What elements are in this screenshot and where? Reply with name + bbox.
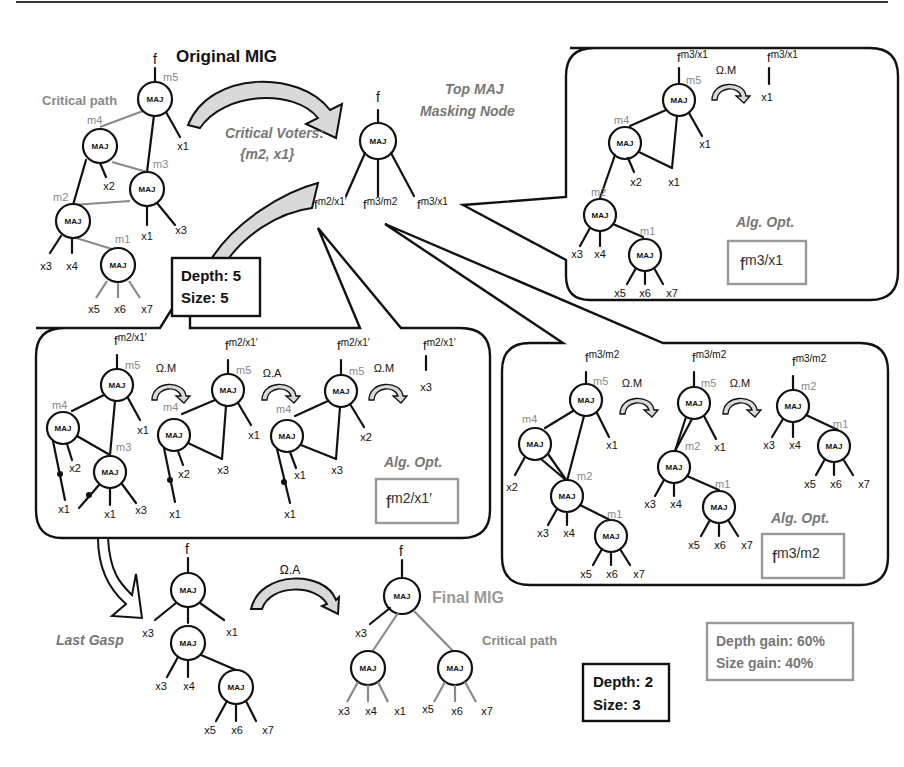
svg-text:x6: x6	[830, 478, 842, 490]
masking-node-label: Masking Node	[420, 103, 515, 119]
svg-text:MAJ: MAJ	[447, 664, 464, 673]
svg-text:x4: x4	[183, 680, 195, 692]
svg-text:x6: x6	[606, 568, 618, 580]
svg-text:m4: m4	[522, 413, 537, 425]
svg-text:m2: m2	[53, 191, 68, 203]
svg-text:MAJ: MAJ	[333, 387, 350, 396]
svg-text:x1: x1	[137, 424, 149, 436]
svg-text:MAJ: MAJ	[559, 492, 576, 501]
svg-text:x1: x1	[169, 508, 181, 520]
svg-text:MAJ: MAJ	[637, 251, 654, 260]
svg-text:x1: x1	[294, 469, 306, 481]
svg-text:MAJ: MAJ	[65, 217, 82, 226]
svg-text:x5: x5	[422, 703, 434, 715]
alg-opt-label: Alg. Opt.	[770, 510, 829, 526]
svg-text:fm3/x1: fm3/x1	[417, 196, 448, 212]
svg-text:m4: m4	[87, 114, 102, 126]
svg-text:x1: x1	[141, 230, 153, 242]
svg-text:x3: x3	[644, 498, 656, 510]
svg-text:m1: m1	[115, 233, 130, 245]
svg-text:x3: x3	[175, 224, 187, 236]
svg-text:MAJ: MAJ	[110, 261, 127, 270]
svg-text:m5: m5	[686, 74, 701, 86]
svg-text:fm2/x1′: fm2/x1′	[314, 196, 347, 212]
original-mig-title: Original MIG	[176, 47, 277, 66]
svg-text:x3: x3	[420, 381, 432, 393]
svg-text:m5: m5	[701, 377, 716, 389]
svg-text:x1: x1	[104, 508, 116, 520]
svg-text:x3: x3	[155, 680, 167, 692]
svg-text:x7: x7	[481, 705, 493, 717]
svg-text:m3: m3	[153, 158, 168, 170]
svg-text:x4: x4	[66, 260, 78, 272]
svg-text:m1: m1	[715, 478, 730, 490]
svg-text:x3: x3	[331, 464, 343, 476]
svg-text:x2: x2	[360, 431, 372, 443]
svg-text:MAJ: MAJ	[109, 381, 126, 390]
svg-text:MAJ: MAJ	[592, 211, 609, 220]
svg-text:x3: x3	[135, 504, 147, 516]
svg-text:x6: x6	[451, 705, 463, 717]
svg-text:MAJ: MAJ	[711, 503, 728, 512]
critical-voters-label: Critical Voters:	[225, 125, 324, 141]
arrow-last-gasp	[98, 538, 142, 618]
svg-text:x3: x3	[355, 627, 367, 639]
svg-text:x2: x2	[103, 180, 115, 192]
svg-text:x4: x4	[365, 705, 377, 717]
alg-opt-label: Alg. Opt.	[735, 214, 794, 230]
svg-text:x1: x1	[699, 138, 711, 150]
svg-text:x4: x4	[594, 248, 606, 260]
svg-text:m3: m3	[116, 441, 131, 453]
size-gain: Size gain: 40%	[716, 655, 814, 671]
svg-text:MAJ: MAJ	[92, 142, 109, 151]
svg-text:m1: m1	[640, 225, 655, 237]
svg-text:MAJ: MAJ	[603, 532, 620, 541]
svg-text:x5: x5	[688, 539, 700, 551]
svg-text:x6: x6	[114, 303, 126, 315]
svg-text:Ω.M: Ω.M	[622, 377, 642, 389]
svg-text:f: f	[185, 541, 189, 557]
svg-text:x4: x4	[670, 498, 682, 510]
svg-text:MAJ: MAJ	[139, 185, 156, 194]
svg-text:x6: x6	[714, 539, 726, 551]
svg-text:m4: m4	[163, 401, 178, 413]
gain-box	[707, 623, 853, 680]
svg-text:x5: x5	[804, 478, 816, 490]
svg-text:MAJ: MAJ	[527, 440, 544, 449]
svg-text:f: f	[376, 89, 380, 105]
original-depth: Depth: 5	[181, 267, 241, 284]
svg-text:m4: m4	[276, 403, 291, 415]
svg-text:m5: m5	[593, 375, 608, 387]
svg-text:MAJ: MAJ	[180, 639, 197, 648]
top-maj-label: Top MAJ	[445, 81, 505, 97]
svg-text:MAJ: MAJ	[360, 664, 377, 673]
svg-text:MAJ: MAJ	[666, 463, 683, 472]
svg-text:m4: m4	[52, 399, 67, 411]
svg-text:x7: x7	[262, 724, 274, 736]
svg-text:Ω.M: Ω.M	[730, 377, 750, 389]
svg-text:m2: m2	[577, 470, 592, 482]
svg-text:m5: m5	[163, 71, 178, 83]
svg-text:MAJ: MAJ	[180, 586, 197, 595]
svg-text:m2: m2	[801, 380, 816, 392]
svg-text:x6: x6	[639, 287, 651, 299]
svg-text:x1: x1	[606, 439, 618, 451]
svg-text:x1: x1	[714, 441, 726, 453]
svg-text:x1: x1	[248, 429, 260, 441]
svg-text:fm3/m2: fm3/m2	[363, 196, 398, 212]
svg-text:MAJ: MAJ	[370, 137, 387, 146]
alg-opt-label: Alg. Opt.	[383, 454, 442, 470]
svg-text:x5: x5	[88, 303, 100, 315]
mig-optimization-diagram: f Original MIG Critical path MAJ MAJ MAJ…	[0, 0, 904, 767]
svg-text:x1: x1	[177, 140, 189, 152]
svg-text:MAJ: MAJ	[785, 402, 802, 411]
svg-text:x7: x7	[633, 568, 645, 580]
last-gasp-tree: f MAJ x3 x1 MAJ x3 x4 MAJ x5 x6 x7	[142, 541, 274, 736]
svg-text:MAJ: MAJ	[671, 96, 688, 105]
svg-text:m1: m1	[607, 508, 622, 520]
svg-text:x1: x1	[226, 626, 238, 638]
svg-text:x3: x3	[571, 248, 583, 260]
svg-text:x7: x7	[666, 287, 678, 299]
output-f: f	[153, 51, 157, 67]
svg-text:MAJ: MAJ	[826, 442, 843, 451]
